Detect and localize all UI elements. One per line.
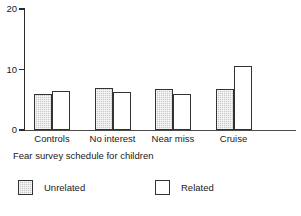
y-tick-label: 10: [6, 65, 17, 75]
legend-label-unrelated: Unrelated: [44, 182, 85, 193]
bar-related-cruise: [234, 66, 252, 130]
legend-swatch-related-icon: [155, 180, 170, 195]
bar-unrelated-cruise: [216, 89, 234, 130]
plot-area: 20100 ControlsNo interestNear missCruise: [0, 0, 301, 145]
y-tick-mark: [19, 8, 25, 9]
y-tick-label: 20: [6, 4, 17, 14]
chart-legend: Unrelated Related: [0, 180, 301, 210]
y-tick-mark: [19, 69, 25, 70]
bar-unrelated-controls: [34, 94, 52, 130]
legend-item-related: Related: [155, 180, 214, 195]
x-axis-title: Fear survey schedule for children: [13, 150, 153, 161]
bar-related-near-miss: [173, 94, 191, 130]
bar-related-controls: [52, 91, 70, 130]
legend-item-unrelated: Unrelated: [18, 180, 85, 195]
y-tick-mark: [19, 129, 25, 130]
bar-unrelated-no-interest: [95, 88, 113, 130]
bar-related-no-interest: [113, 92, 131, 130]
x-tick-label-cruise: Cruise: [194, 133, 274, 144]
bar-chart-figure: 20100 ControlsNo interestNear missCruise…: [0, 0, 301, 216]
legend-label-related: Related: [181, 182, 214, 193]
legend-swatch-unrelated-icon: [18, 180, 33, 195]
bar-unrelated-near-miss: [155, 89, 173, 130]
